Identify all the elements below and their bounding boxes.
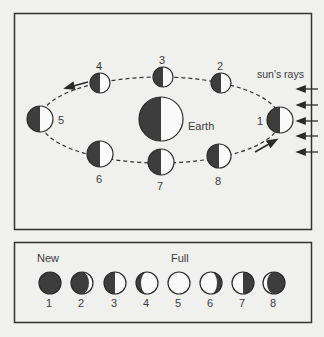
orbit-moon-label-5: 5 [58, 114, 64, 126]
phase-7-last-quarter [232, 272, 254, 294]
phase-label-5: 5 [175, 297, 181, 309]
phase-6-waning-gibbous [200, 272, 222, 294]
phase-4-waxing-gibbous [136, 272, 158, 294]
orbit-moon-1 [267, 107, 293, 133]
orbit-moon-label-2: 2 [217, 60, 223, 72]
orbit-moon-5 [27, 106, 53, 132]
orbit-moon-2 [211, 73, 231, 93]
orbit-moon-7 [148, 149, 174, 175]
phase-label-2: 2 [78, 297, 84, 309]
new-moon-label: New [37, 252, 59, 264]
phase-1-new-moon [39, 272, 61, 294]
phase-3-first-quarter [104, 272, 126, 294]
moon-phases-diagram: sun's rays Earth 1 2 3 4 5 6 7 [0, 0, 324, 337]
phase-label-8: 8 [270, 297, 276, 309]
orbit-moon-label-4: 4 [96, 60, 102, 72]
orbit-moon-label-3: 3 [159, 54, 165, 66]
orbit-moon-label-8: 8 [215, 175, 221, 187]
phase-label-3: 3 [111, 297, 117, 309]
phase-5-full-moon [168, 272, 190, 294]
sun-rays-arrows [298, 89, 318, 152]
phase-8-waning-crescent [263, 272, 285, 294]
phase-label-4: 4 [143, 297, 149, 309]
orbit-moon-3 [153, 67, 173, 87]
orbit-moon-6 [87, 141, 113, 167]
orbit-moon-8 [207, 144, 231, 168]
orbit-moon-label-6: 6 [96, 173, 102, 185]
orbit-moon-4 [90, 73, 110, 93]
phase-label-6: 6 [207, 297, 213, 309]
phase-2-waxing-crescent [71, 272, 93, 294]
full-moon-label: Full [171, 252, 189, 264]
earth-label: Earth [188, 120, 214, 132]
orbit-moon-label-1: 1 [257, 115, 263, 127]
earth-globe [139, 97, 183, 141]
phase-label-1: 1 [46, 297, 52, 309]
orbit-moon-label-7: 7 [157, 180, 163, 192]
sun-rays-label: sun's rays [257, 68, 304, 80]
orbit-direction-arrow-bottom [255, 140, 276, 152]
phase-label-7: 7 [239, 297, 245, 309]
